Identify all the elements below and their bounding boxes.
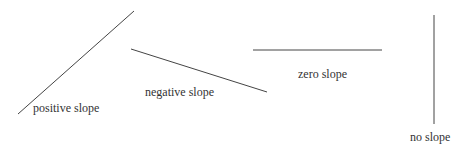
slope-diagram [0, 0, 466, 150]
negative-slope-label: negative slope [145, 86, 214, 98]
zero-slope-label: zero slope [298, 68, 347, 80]
no-slope-label: no slope [410, 131, 450, 143]
positive-slope-line [18, 11, 134, 114]
positive-slope-label: positive slope [33, 102, 99, 114]
